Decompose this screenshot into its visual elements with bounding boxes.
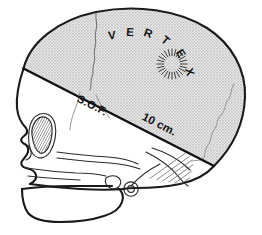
skull-diagram-figure: V E R T E X S.O.F. 10 cm.: [0, 0, 262, 235]
zygomatic-arch: [57, 152, 140, 169]
vertex-letter-v: V: [107, 29, 116, 42]
mandible: [22, 176, 123, 222]
temporal-occipital-contours: [131, 148, 190, 186]
vertex-letter-e1: E: [126, 26, 135, 39]
mastoid-hatching: [145, 152, 198, 202]
orbit: [29, 113, 56, 157]
skull-illustration: V E R T E X S.O.F. 10 cm.: [0, 0, 262, 235]
maxilla: [26, 168, 106, 180]
